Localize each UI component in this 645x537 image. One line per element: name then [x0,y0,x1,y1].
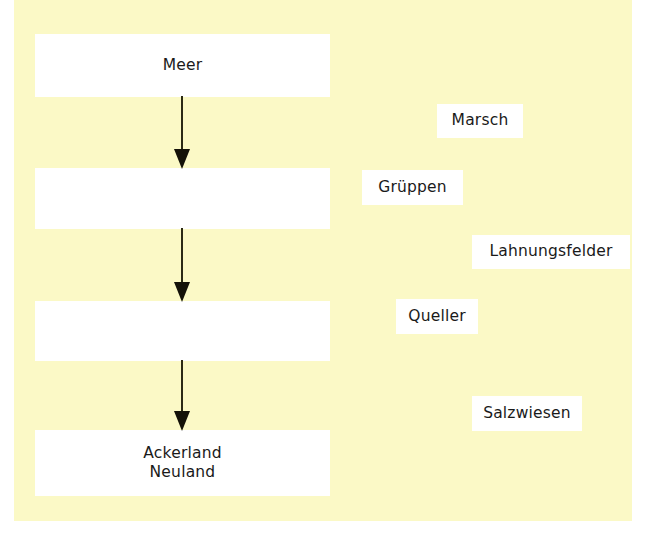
annotation-label-grueppen: Grüppen [362,170,463,205]
annotation-label-queller: Queller [396,299,478,334]
flow-arrow-down-icon [166,360,198,431]
diagram-canvas: Meer Ackerland Neuland Marsch Grüppen La… [0,0,645,537]
chain-box-stage-2 [35,168,330,229]
flow-arrow-down-icon [166,96,198,169]
annotation-label-lahnungsfelder: Lahnungsfelder [472,235,630,269]
annotation-label-marsch: Marsch [437,104,523,138]
chain-box-meer: Meer [35,34,330,97]
annotation-label-salzwiesen: Salzwiesen [472,396,582,431]
chain-box-label: Ackerland Neuland [143,444,221,482]
flow-arrow-down-icon [166,228,198,302]
chain-box-ackerland-neuland: Ackerland Neuland [35,430,330,496]
chain-box-stage-3 [35,301,330,361]
chain-box-label: Meer [163,56,203,75]
